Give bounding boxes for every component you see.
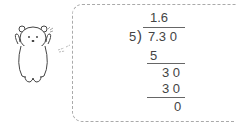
division-bracket: ) — [137, 29, 142, 42]
bear-illustration-icon — [12, 24, 56, 84]
quotient: 1.6 — [150, 11, 168, 24]
divisor: 5 — [129, 30, 136, 43]
subtract-step-1: 5 — [150, 49, 157, 62]
bring-down-value: 3 0 — [162, 66, 180, 79]
division-bar — [143, 27, 185, 28]
subtraction-line-1 — [147, 63, 185, 64]
subtraction-line-2 — [147, 97, 185, 98]
subtract-step-2: 3 0 — [162, 82, 180, 95]
dividend: 7.3 0 — [148, 30, 177, 43]
speech-tail-icon — [56, 44, 72, 54]
remainder: 0 — [174, 100, 181, 113]
